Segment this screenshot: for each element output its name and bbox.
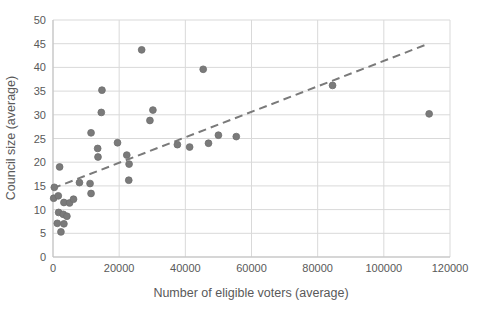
y-tick-label: 15 [34,180,46,192]
data-point [329,82,336,89]
data-point [147,117,154,124]
y-tick-label: 30 [34,109,46,121]
y-tick-label: 10 [34,204,46,216]
data-point [54,220,61,227]
data-point [55,192,62,199]
y-tick-label: 50 [34,14,46,26]
x-tick-label: 100000 [365,262,402,274]
data-point [174,141,181,148]
data-point [56,164,63,171]
data-point [94,145,101,152]
data-point [123,152,130,159]
x-tick-label: 20000 [104,262,135,274]
data-point [215,132,222,139]
x-tick-label: 80000 [302,262,333,274]
data-point [125,177,132,184]
data-point [205,140,212,147]
data-point [88,190,95,197]
data-point [76,179,83,186]
data-point [63,213,70,220]
x-tick-label: 60000 [236,262,267,274]
x-tick-label: 40000 [170,262,201,274]
trendline [53,44,428,189]
x-axis-title: Number of eligible voters (average) [153,286,348,300]
data-point [51,184,58,191]
data-point [150,107,157,114]
y-tick-label: 40 [34,61,46,73]
data-point [61,220,68,227]
data-point [138,46,145,53]
y-tick-label: 0 [40,251,46,263]
y-axis-title: Council size (average) [4,76,18,200]
data-point [99,87,106,94]
data-point [95,154,102,161]
data-point [233,133,240,140]
data-point [98,109,105,116]
y-tick-label: 45 [34,38,46,50]
data-point [87,180,94,187]
y-tick-label: 20 [34,156,46,168]
x-tick-label: 0 [50,262,56,274]
y-tick-label: 25 [34,133,46,145]
data-point [426,110,433,117]
data-point [200,66,207,73]
data-point [126,161,133,168]
data-point [88,129,95,136]
data-point [70,196,77,203]
scatter-plot: 0200004000060000800001000001200000510152… [0,0,479,312]
y-tick-label: 5 [40,227,46,239]
y-tick-label: 35 [34,85,46,97]
x-tick-label: 120000 [432,262,469,274]
data-point [186,144,193,151]
chart-container: 0200004000060000800001000001200000510152… [0,0,479,312]
data-point [58,228,65,235]
data-point [114,139,121,146]
